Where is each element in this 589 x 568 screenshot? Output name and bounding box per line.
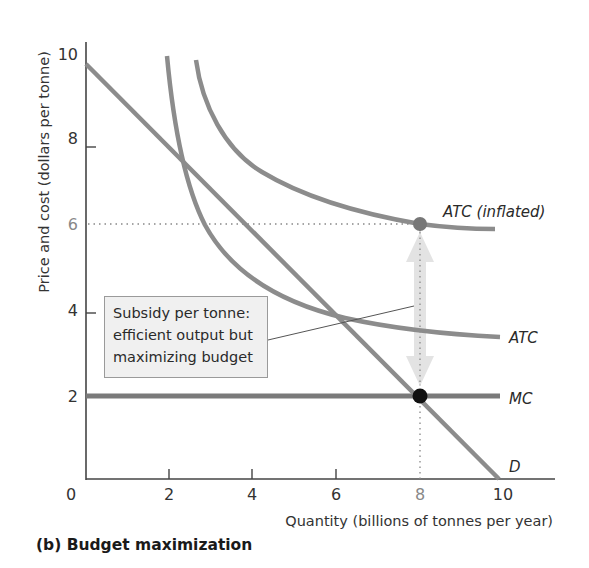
x-axis-title: Quantity (billions of tonnes per year) — [285, 513, 553, 529]
y-tick-2: 2 — [68, 387, 78, 406]
label-atc: ATC — [508, 329, 538, 347]
inflated-cost-point — [413, 217, 427, 231]
callout-line-3: maximizing budget — [113, 346, 259, 368]
y-tick-8: 8 — [68, 129, 78, 148]
callout-leader-line — [268, 306, 414, 340]
callout-line-2: efficient output but — [113, 324, 259, 346]
x-tick-8: 8 — [415, 485, 425, 504]
x-tick-4: 4 — [247, 485, 257, 504]
figure-caption: (b) Budget maximization — [36, 536, 252, 554]
y-tick-6: 6 — [68, 215, 78, 234]
budget-maximization-chart: Price and cost (dollars per tonne) 10 8 … — [0, 0, 589, 568]
x-tick-6: 6 — [331, 485, 341, 504]
y-ticks — [86, 147, 96, 313]
callout-line-1: Subsidy per tonne: — [113, 302, 259, 324]
y-tick-10: 10 — [58, 45, 78, 64]
origin-label: 0 — [66, 485, 76, 504]
subsidy-callout: Subsidy per tonne: efficient output but … — [104, 296, 268, 378]
demand-curve — [86, 64, 499, 479]
x-ticks — [169, 469, 336, 479]
y-axis-title: Price and cost (dollars per tonne) — [36, 51, 52, 293]
y-tick-4: 4 — [68, 301, 78, 320]
label-atc-inflated: ATC (inflated) — [442, 203, 545, 221]
x-tick-10: 10 — [493, 485, 513, 504]
label-mc: MC — [509, 390, 533, 408]
x-tick-2: 2 — [164, 485, 174, 504]
efficient-output-point — [413, 389, 428, 404]
label-d: D — [509, 458, 521, 476]
